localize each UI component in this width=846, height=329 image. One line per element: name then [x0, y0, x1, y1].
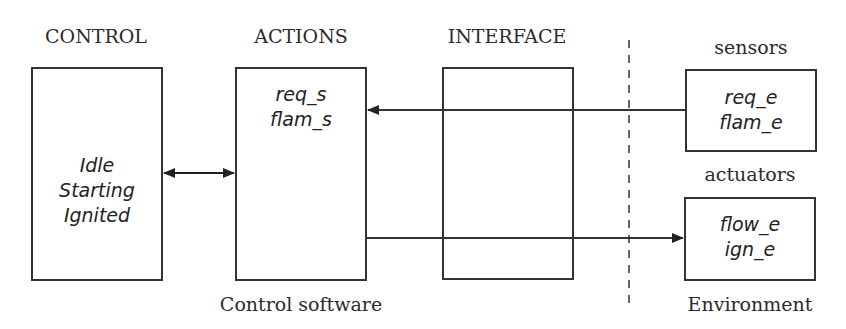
connections-layer: [0, 0, 846, 329]
